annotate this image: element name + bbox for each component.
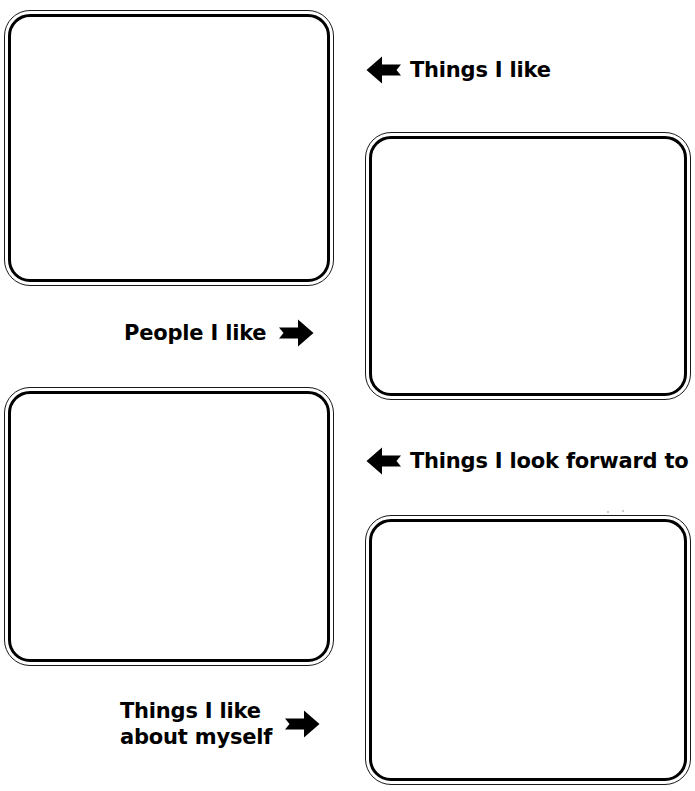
answer-box-inner[interactable] [8, 391, 330, 662]
label-line-2: about myself [120, 724, 272, 750]
label-text: Things I look forward to [410, 449, 689, 474]
label-things-i-look-forward-to: Things I look forward to [365, 446, 689, 476]
arrow-left-icon [365, 446, 401, 476]
arrow-left-icon [365, 55, 401, 85]
arrow-right-icon [283, 709, 321, 739]
scan-artifact [607, 511, 609, 513]
label-line-1: Things I like [120, 698, 272, 724]
label-things-i-like: Things I like [365, 55, 551, 85]
answer-box-inner[interactable] [369, 519, 687, 781]
label-text: Things I like [410, 58, 551, 83]
arrow-right-icon [277, 318, 315, 348]
answer-box-inner[interactable] [8, 14, 330, 282]
label-text: Things I like about myself [120, 698, 272, 750]
label-things-i-like-about-myself: Things I like about myself [120, 698, 321, 750]
scan-artifact [622, 510, 624, 512]
label-text: People I like [124, 321, 266, 346]
answer-box-things-i-like[interactable] [365, 132, 691, 400]
worksheet-page: Things I like People I like Things I loo… [0, 0, 695, 791]
answer-box-inner[interactable] [369, 136, 687, 396]
label-people-i-like: People I like [124, 318, 315, 348]
answer-box-things-i-look-forward-to[interactable] [365, 515, 691, 785]
answer-box-things-i-like-about-myself[interactable] [4, 387, 334, 666]
answer-box-people-i-like[interactable] [4, 10, 334, 286]
